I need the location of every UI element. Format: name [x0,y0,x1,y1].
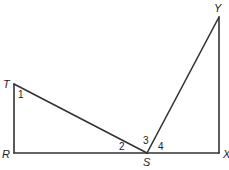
point-label-t: T [3,78,11,90]
point-label-x: X [222,148,229,160]
angle-label-2: 2 [119,141,125,152]
segment-sy [147,17,219,153]
angle-label-3: 3 [143,135,149,146]
segment-ts [14,84,147,153]
geometry-diagram: T R S X Y 1 2 3 4 [0,0,229,170]
point-label-s: S [143,156,151,168]
angle-label-4: 4 [158,141,164,152]
point-label-y: Y [214,2,222,14]
angle-label-1: 1 [18,89,24,100]
point-label-r: R [2,148,10,160]
